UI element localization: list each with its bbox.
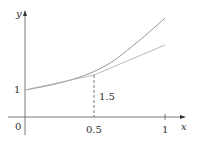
x-tick-half-label: 0.5 — [86, 125, 102, 135]
y-axis-label: y — [16, 9, 22, 19]
chart: y x 0 1 0.5 1 1.5 — [0, 0, 197, 149]
euler-polyline — [25, 45, 165, 90]
euler-value-label: 1.5 — [99, 92, 115, 102]
y-tick-1-label: 1 — [14, 85, 20, 95]
x-axis-label: x — [181, 122, 187, 132]
x-axis-arrow-icon — [180, 115, 186, 119]
y-axis-arrow-icon — [23, 10, 27, 16]
origin-label: 0 — [15, 122, 21, 132]
x-tick-1-label: 1 — [162, 125, 168, 135]
